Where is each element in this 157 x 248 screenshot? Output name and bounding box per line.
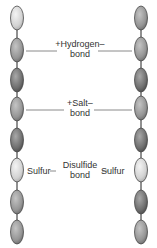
left-amino-acid-bead [11, 220, 24, 244]
salt-bond-label: +Salt– bond [60, 98, 100, 118]
disulfide-bond-label: Disulfide bond [57, 160, 103, 180]
right-amino-acid-bead [135, 96, 148, 120]
right-amino-acid-bead [135, 158, 148, 182]
right-amino-acid-bead [135, 68, 148, 92]
right-amino-acid-bead [135, 190, 148, 214]
right-amino-acid-bead [135, 6, 148, 30]
left-amino-acid-bead [11, 190, 24, 214]
left-polypeptide-chain [11, 6, 24, 244]
right-sulfur-label: Sulfur [101, 166, 125, 176]
right-polypeptide-chain [135, 6, 148, 244]
left-amino-acid-bead [11, 68, 24, 92]
protein-bond-diagram: +Hydrogen– bond +Salt– bond Disulfide bo… [0, 0, 157, 248]
left-amino-acid-bead [11, 6, 24, 30]
left-sulfur-label: Sulfur [27, 166, 51, 176]
left-amino-acid-bead [11, 128, 24, 152]
diagram-canvas [0, 0, 157, 248]
right-amino-acid-bead [135, 128, 148, 152]
left-amino-acid-bead [11, 158, 24, 182]
right-amino-acid-bead [135, 37, 148, 61]
right-amino-acid-bead [135, 220, 148, 244]
hydrogen-bond-label: +Hydrogen– bond [55, 39, 105, 59]
left-amino-acid-bead [11, 97, 24, 121]
left-amino-acid-bead [11, 38, 24, 62]
